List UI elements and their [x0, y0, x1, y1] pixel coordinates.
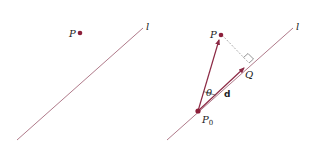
- vector-d-label: d: [224, 89, 230, 99]
- point-p0-label: P0: [201, 114, 213, 127]
- vector-p0-to-p: [198, 40, 219, 111]
- point-p: [78, 31, 83, 36]
- perpendicular-dashed-line: [222, 35, 249, 63]
- line-l: [167, 28, 293, 140]
- point-q-label: Q: [245, 69, 253, 80]
- diagram-canvas: P l P l Q θ d P0: [0, 0, 323, 151]
- angle-theta-label: θ: [206, 87, 212, 98]
- right-angle-marker: [244, 54, 254, 64]
- point-p-label: P: [68, 28, 76, 39]
- line-l-label: l: [296, 21, 299, 32]
- line-l: [17, 28, 143, 140]
- line-l-label: l: [146, 21, 149, 32]
- point-p0: [195, 108, 200, 113]
- left-panel: P l: [17, 21, 149, 140]
- point-p: [219, 33, 224, 38]
- point-p-label: P: [209, 29, 217, 40]
- right-panel: P l Q θ d P0: [167, 21, 299, 140]
